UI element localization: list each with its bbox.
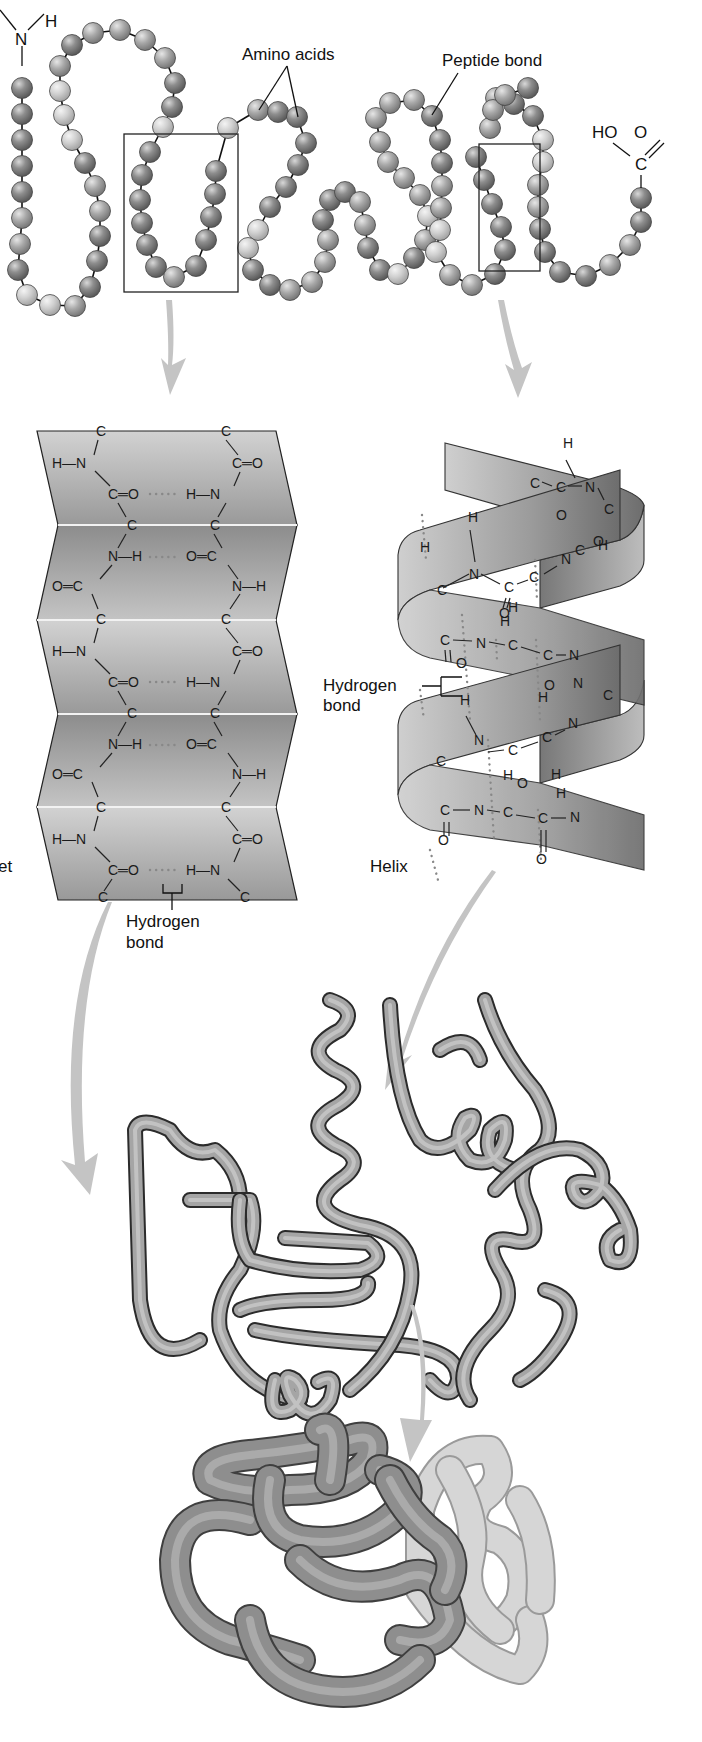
n-terminus-nitrogen: N — [15, 30, 27, 49]
amino-acid-bead — [302, 272, 323, 293]
arrow-to-sheet-icon — [161, 300, 186, 395]
primary-structure: N H Amino acids Peptide bond HO O C — [0, 10, 664, 317]
sheet-carbonyl-right: O═C — [186, 736, 217, 752]
peptide-bond-label: Peptide bond — [442, 51, 542, 70]
amino-acid-bead — [482, 194, 503, 215]
amino-acid-bead — [132, 165, 153, 186]
amino-acid-bead — [110, 20, 131, 41]
helix-atom: N — [585, 479, 595, 495]
amino-acid-bead — [355, 215, 376, 236]
c-terminus-hydroxyl: HO — [592, 123, 618, 142]
arrow-sheet-to-tertiary-icon — [61, 902, 112, 1195]
amino-acid-bead — [318, 230, 339, 251]
amino-acid-bead — [65, 296, 86, 317]
amino-acid-bead — [430, 220, 451, 241]
amino-acid-bead — [404, 90, 425, 111]
amino-acid-bead — [85, 176, 106, 197]
helix-atom: C — [538, 810, 548, 826]
sheet-carbonyl-left: C═O — [108, 486, 139, 502]
amino-acid-bead — [388, 264, 409, 285]
sheet-atom-carbon: C — [221, 423, 231, 439]
sheet-atom-carbon: C — [210, 517, 220, 533]
amino-acid-bead — [260, 197, 281, 218]
amino-acid-bead — [260, 275, 281, 296]
helix-atom: H — [500, 613, 510, 629]
amino-acid-bead — [431, 198, 452, 219]
protein-structure-diagram: N H Amino acids Peptide bond HO O C — [0, 0, 702, 1742]
helix-atom: C — [504, 579, 514, 595]
amino-acid-bead — [480, 118, 501, 139]
amino-acids-label: Amino acids — [242, 45, 335, 64]
c-terminus: HO O C — [592, 123, 664, 188]
helix-atom: H — [551, 766, 561, 782]
amino-acid-bead — [205, 184, 226, 205]
amino-acid-bead — [523, 106, 544, 127]
amino-acid-bead — [12, 182, 33, 203]
amino-acid-bead — [8, 260, 29, 281]
amino-acid-bead — [17, 285, 38, 306]
helix-atom: C — [543, 647, 553, 663]
sheet-atom-carbon: C — [98, 889, 108, 905]
amino-acid-bead — [162, 97, 183, 118]
amino-acid-bead — [135, 30, 156, 51]
amino-acid-bead — [155, 48, 176, 69]
helix-atom: C — [530, 475, 540, 491]
amino-acid-bead — [87, 251, 108, 272]
helix-bond-line — [488, 750, 504, 752]
helix-atom: N — [474, 802, 484, 818]
amino-acid-bead — [533, 130, 554, 151]
amino-acid-bead — [528, 197, 549, 218]
sheet-carbonyl-right: C═O — [232, 455, 263, 471]
n-terminus-hydrogen: H — [45, 12, 57, 31]
amino-acid-bead — [380, 93, 401, 114]
amino-acid-bead — [218, 118, 239, 139]
helix-atom: H — [468, 509, 478, 525]
helix-atom: H — [538, 689, 548, 705]
helix-atom: C — [437, 582, 447, 598]
amino-acid-bead — [54, 105, 75, 126]
amino-acid-bead — [535, 242, 556, 263]
amino-acid-chain — [8, 20, 652, 317]
helix-label: Helix — [370, 857, 408, 876]
amino-acid-bead — [378, 152, 399, 173]
sheet-amide-right: H—N — [186, 674, 220, 690]
helix-atom: C — [440, 632, 450, 648]
arrow-to-helix-icon — [498, 300, 532, 398]
sheet-hbond-label-line2: bond — [126, 933, 164, 952]
amino-acid-bead — [440, 265, 461, 286]
helix-atom: N — [570, 809, 580, 825]
helix-atom: H — [563, 435, 573, 451]
helix-atom: C — [556, 479, 566, 495]
amino-acid-bead — [426, 242, 447, 263]
helix-atom: O — [556, 507, 567, 523]
helix-atom: O — [517, 775, 528, 791]
helix-atom: N — [568, 715, 578, 731]
sheet-amide-right: H—N — [186, 486, 220, 502]
helix-hbond-label-line1: Hydrogen — [323, 676, 397, 695]
amino-acid-bead — [137, 235, 158, 256]
globular-protein — [175, 1429, 541, 1692]
helix-bond-line — [481, 574, 500, 584]
amino-acid-bead — [276, 177, 297, 198]
amino-acid-bead — [248, 220, 269, 241]
amino-acid-bead — [432, 176, 453, 197]
amino-acid-bead — [350, 192, 371, 213]
alpha-helix: CCNHOCHHNCCCNOHCOHCNCCNHOOHNCHNCCNCOHCNC… — [323, 435, 644, 880]
amino-acid-bead — [12, 130, 33, 151]
amino-acid-bead — [550, 262, 571, 283]
amino-acid-bead — [631, 212, 652, 233]
amino-acid-bead — [40, 295, 61, 316]
amino-acid-bead — [296, 133, 317, 154]
sheet-atom-carbon: C — [221, 799, 231, 815]
amino-acid-bead — [196, 230, 217, 251]
amino-acid-bead — [132, 213, 153, 234]
sheet-carbonyl-left: O═C — [52, 766, 83, 782]
amino-acid-bead — [370, 132, 391, 153]
helix-atom: N — [476, 635, 486, 651]
amino-acid-bead — [12, 104, 33, 125]
sheet-atom-carbon: C — [96, 799, 106, 815]
helix-atom: N — [561, 551, 571, 567]
sheet-amide-left: N—H — [108, 736, 142, 752]
amino-acid-bead — [146, 257, 167, 278]
helix-atom: H — [598, 537, 608, 553]
